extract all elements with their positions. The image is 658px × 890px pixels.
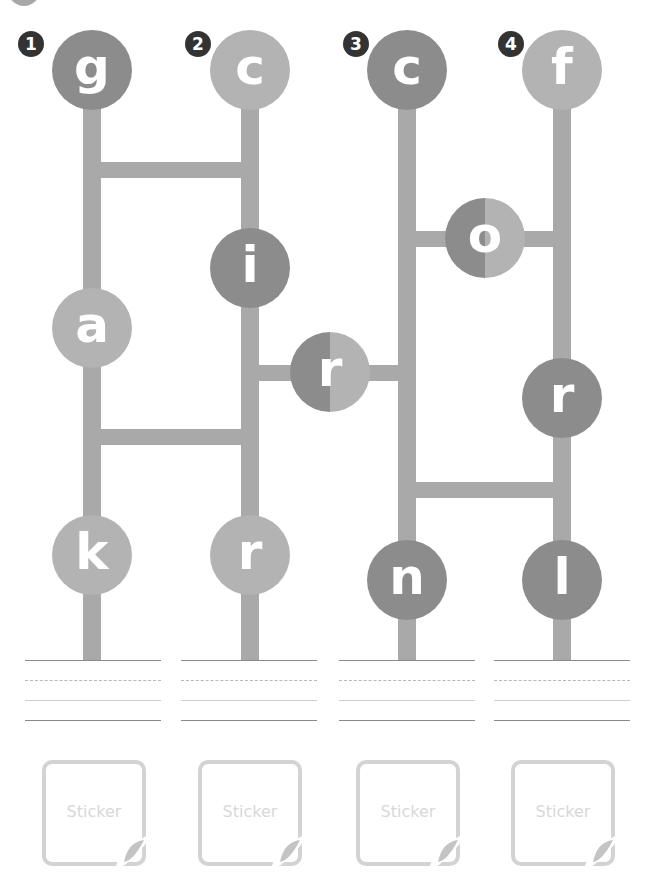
- letter-node-col1-a: a: [52, 288, 132, 368]
- letter-node-col3-top: c: [367, 30, 447, 110]
- sticker-label: Sticker: [515, 802, 611, 821]
- ladder-rung-3-4-bottom: [407, 482, 562, 498]
- column-number-badge-4: 4: [498, 31, 524, 57]
- sticker-label: Sticker: [360, 802, 456, 821]
- writing-lines-3[interactable]: [339, 660, 475, 724]
- ladder-rung-1-2-bottom: [92, 429, 250, 445]
- letter-node-col1-k: k: [52, 515, 132, 595]
- letter-node-bridge-3-4-o: o: [445, 198, 525, 278]
- page-curl-icon: [116, 836, 146, 866]
- sticker-slot-4[interactable]: Sticker: [511, 760, 615, 866]
- ladder-rung-1-2-top: [92, 162, 250, 178]
- page-curl-icon: [430, 836, 460, 866]
- column-number-badge-1: 1: [18, 31, 44, 57]
- sticker-label: Sticker: [46, 802, 142, 821]
- writing-lines-1[interactable]: [25, 660, 161, 724]
- page-curl-icon: [272, 836, 302, 866]
- letter-node-col2-top: c: [210, 30, 290, 110]
- letter-node-col3-n: n: [367, 540, 447, 620]
- sticker-label: Sticker: [202, 802, 298, 821]
- sticker-slot-2[interactable]: Sticker: [198, 760, 302, 866]
- writing-lines-2[interactable]: [181, 660, 317, 724]
- corner-decoration: [8, 0, 40, 6]
- letter-node-col4-l: l: [522, 540, 602, 620]
- sticker-slot-1[interactable]: Sticker: [42, 760, 146, 866]
- column-number-badge-3: 3: [343, 31, 369, 57]
- letter-node-col4-top: f: [522, 30, 602, 110]
- letter-node-col2-i: i: [210, 228, 290, 308]
- letter-node-col4-r: r: [522, 358, 602, 438]
- sticker-slot-3[interactable]: Sticker: [356, 760, 460, 866]
- column-number-badge-2: 2: [185, 31, 211, 57]
- writing-lines-4[interactable]: [494, 660, 630, 724]
- letter-node-col1-top: g: [52, 30, 132, 110]
- letter-node-col2-r: r: [210, 515, 290, 595]
- page-curl-icon: [585, 836, 615, 866]
- letter-node-bridge-2-3-r: r: [290, 332, 370, 412]
